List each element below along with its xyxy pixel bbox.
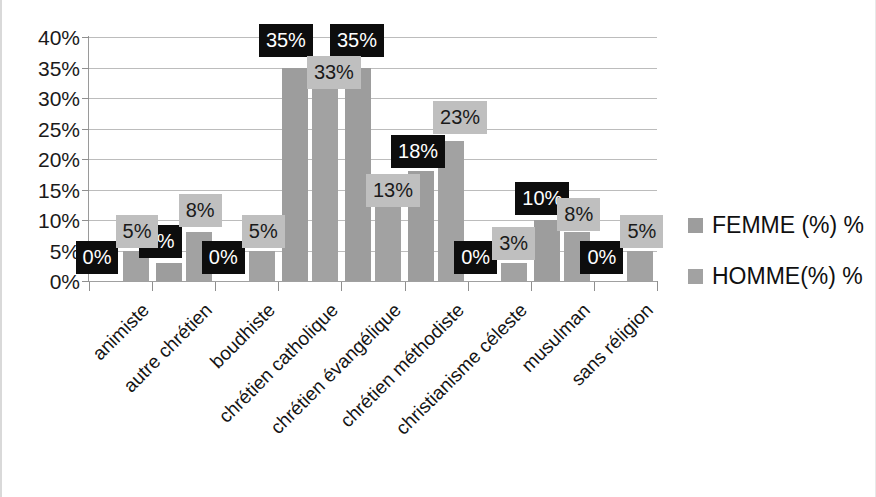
legend-swatch-icon bbox=[688, 218, 703, 233]
data-label-femme-3: 35% bbox=[259, 24, 313, 57]
data-label-homme-5: 23% bbox=[433, 101, 487, 134]
x-axis-label-3: chrétien catholique bbox=[215, 300, 341, 426]
chart-legend: FEMME (%) %HOMME(%) % bbox=[688, 214, 864, 316]
legend-item-1[interactable]: HOMME(%) % bbox=[688, 265, 864, 288]
legend-item-0[interactable]: FEMME (%) % bbox=[688, 214, 864, 237]
data-label-femme-5: 18% bbox=[391, 135, 445, 168]
legend-swatch-icon bbox=[688, 269, 703, 284]
legend-label: HOMME(%) % bbox=[712, 265, 863, 288]
x-axis-label-0: animiste bbox=[89, 300, 152, 363]
legend-label: FEMME (%) % bbox=[712, 214, 864, 237]
data-label-femme-0: 0% bbox=[76, 241, 119, 274]
data-label-femme-4: 35% bbox=[330, 24, 384, 57]
x-axis-label-5: chrétien méthodiste bbox=[337, 300, 468, 431]
data-label-homme-0: 5% bbox=[116, 215, 159, 248]
data-label-homme-3: 33% bbox=[307, 56, 361, 89]
data-label-homme-7: 8% bbox=[557, 198, 600, 231]
data-label-homme-2: 5% bbox=[242, 215, 285, 248]
chart-container: 40%35%30%25%20%15%10%5%0% 0%3%0%35%35%18… bbox=[0, 0, 876, 497]
data-label-homme-8: 5% bbox=[620, 215, 663, 248]
data-label-homme-4: 13% bbox=[366, 174, 420, 207]
data-label-homme-6: 3% bbox=[492, 227, 535, 260]
data-label-homme-1: 8% bbox=[179, 194, 222, 227]
data-label-femme-2: 0% bbox=[202, 241, 245, 274]
x-axis-label-6: christianisme céleste bbox=[393, 300, 531, 438]
data-label-femme-6: 0% bbox=[454, 241, 497, 274]
data-label-femme-8: 0% bbox=[580, 241, 623, 274]
